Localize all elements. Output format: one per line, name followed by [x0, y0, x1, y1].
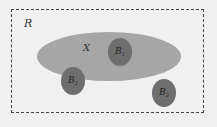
region-label: R	[24, 17, 32, 30]
circle-B1-label: B1	[108, 46, 132, 58]
set-label: X	[83, 42, 90, 53]
circle-B3: B3	[152, 79, 176, 107]
circle-B2: B2	[61, 67, 85, 95]
circle-B3-label: B3	[152, 87, 176, 99]
circle-B2-label: B2	[61, 75, 85, 87]
circle-B1: B1	[108, 38, 132, 66]
